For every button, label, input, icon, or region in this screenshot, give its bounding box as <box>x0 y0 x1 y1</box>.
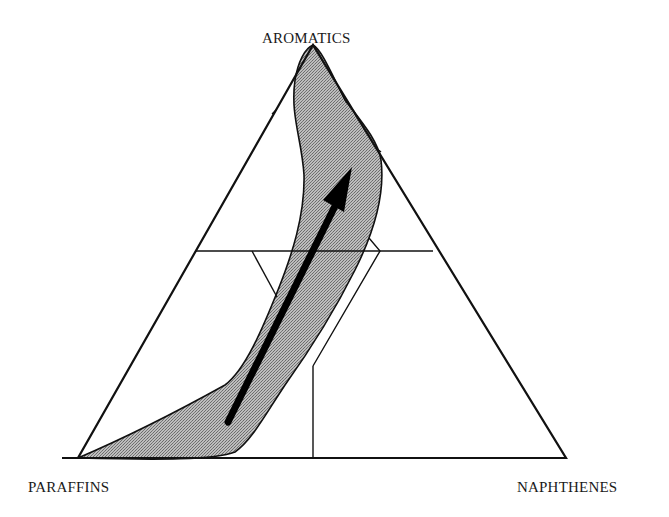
ternary-diagram <box>0 0 669 517</box>
vertex-label-naphthenes: NAPHTHENES <box>517 479 617 496</box>
inner-inverted-triangle-left <box>252 251 277 297</box>
vertex-label-paraffins: PARAFFINS <box>28 479 109 496</box>
vertex-label-aromatics: AROMATICS <box>262 30 350 47</box>
shaded-composition-field <box>78 45 382 459</box>
